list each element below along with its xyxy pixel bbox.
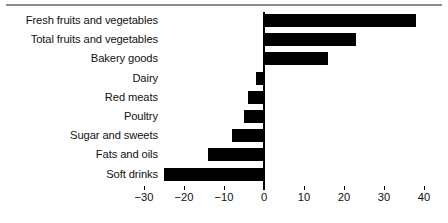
x-axis-tick-label: −20 <box>164 190 204 204</box>
top-divider-rule <box>6 4 442 6</box>
bar <box>164 168 264 181</box>
x-axis-tick-label: 10 <box>284 190 324 204</box>
x-axis-tick-label: 0 <box>244 190 284 204</box>
bar <box>264 52 328 65</box>
bar <box>264 14 416 27</box>
bar <box>244 110 264 123</box>
plot-area <box>0 10 448 190</box>
x-axis-tick-label: 30 <box>364 190 404 204</box>
x-axis-tick-label: 20 <box>324 190 364 204</box>
bar <box>264 33 356 46</box>
bar <box>256 72 264 85</box>
x-axis-tick-label: −30 <box>124 190 164 204</box>
x-axis-tick-label: 40 <box>404 190 444 204</box>
bar <box>248 91 264 104</box>
bar-chart-figure: Fresh fruits and vegetablesTotal fruits … <box>0 0 448 223</box>
bar <box>232 129 264 142</box>
x-axis-tick-label: −10 <box>204 190 244 204</box>
x-axis-tick-row: −30−20−10010203040 <box>0 190 448 206</box>
bar <box>208 148 264 161</box>
